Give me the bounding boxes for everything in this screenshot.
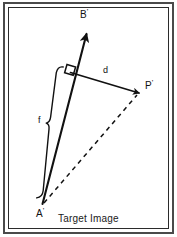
label-distance-d: d [103,66,108,75]
label-p-prime-mark: ' [152,78,154,87]
diagram-canvas [0,0,177,237]
label-b-prime-mark: ' [87,7,89,16]
line-dashed-a-prime-p-prime [44,95,137,203]
figure-root: B' P' A' d f Target Image [0,0,177,237]
figure-caption: Target Image [0,213,177,224]
line-distance-d [71,73,140,94]
label-length-f: f [38,116,41,125]
label-point-b-prime: B' [80,10,88,20]
right-angle-marker [65,65,76,76]
label-p-text: P [145,80,152,91]
label-b-text: B [80,9,87,20]
label-point-p-prime: P' [145,81,153,91]
line-a-prime-b-prime [43,34,87,204]
